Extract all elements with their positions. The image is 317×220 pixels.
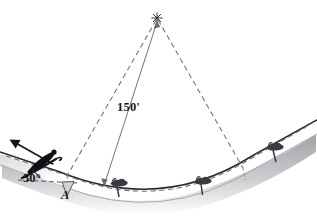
physics-diagram-figure: 150' 30° A (0, 0, 317, 220)
ski-tip-icon (56, 158, 62, 161)
slope-angle-label: 30° (23, 172, 41, 185)
dashed-radius-leg-left (67, 20, 156, 176)
radius-label: 150' (117, 101, 140, 114)
skier-head-icon (51, 149, 56, 154)
dashed-radius-leg-right (158, 20, 243, 168)
diagram-canvas (0, 0, 317, 220)
point-a-label: A (61, 189, 69, 202)
terrain-group (0, 120, 317, 215)
